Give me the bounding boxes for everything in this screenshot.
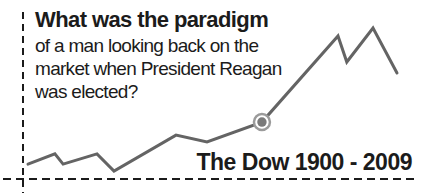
chart-title: The Dow 1900 - 2009 (197, 149, 413, 176)
question-headline: What was the paradigm (35, 6, 282, 34)
dow-paradigm-figure: What was the paradigm of a man looking b… (0, 0, 421, 196)
question-line-2: market when President Reagan (35, 57, 282, 80)
highlight-dot-icon (257, 117, 266, 126)
question-line-1: of a man looking back on the (35, 34, 282, 57)
question-block: What was the paradigm of a man looking b… (35, 6, 282, 103)
question-line-3: was elected? (35, 80, 282, 103)
